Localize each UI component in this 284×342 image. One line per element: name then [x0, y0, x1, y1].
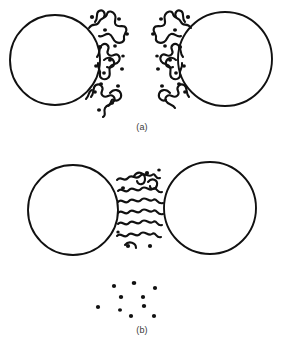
diagram-svg	[0, 0, 284, 342]
monomer-dot	[99, 82, 103, 86]
monomer-dot	[173, 28, 177, 32]
monomer-dot	[97, 108, 101, 112]
monomer-dot	[121, 186, 125, 190]
monomer-dot	[94, 64, 98, 67]
monomer-dot	[113, 44, 117, 47]
free-monomer-dot	[132, 281, 137, 285]
monomer-dot	[163, 44, 167, 47]
panel-a-label: (a)	[122, 122, 162, 132]
monomer-dot	[116, 84, 120, 88]
panel-a-left-particle	[10, 15, 100, 105]
free-monomer-dot	[129, 314, 133, 318]
free-monomer-dot	[152, 314, 156, 318]
monomer-dot	[120, 67, 124, 71]
monomer-dot	[183, 90, 187, 93]
monomer-dot	[177, 82, 181, 86]
free-monomer-dot	[112, 284, 116, 288]
monomer-dot	[157, 168, 161, 171]
monomer-dot	[148, 244, 152, 248]
monomer-dot	[102, 71, 106, 74]
monomer-dot	[108, 58, 112, 62]
panel-a-right-particle	[178, 12, 272, 106]
monomer-dot	[145, 171, 149, 175]
panel-b-left-particle	[28, 165, 118, 255]
monomer-dot	[159, 17, 163, 21]
monomer-dot	[182, 64, 186, 67]
monomer-dot	[117, 17, 121, 21]
monomer-dot	[126, 244, 130, 248]
free-monomer-dot	[141, 295, 145, 299]
free-monomer-dot	[142, 304, 146, 308]
monomer-dot	[90, 15, 94, 19]
monomer-dot	[121, 54, 125, 57]
monomer-dot	[186, 15, 190, 19]
monomer-dot	[151, 32, 155, 36]
monomer-dot	[174, 71, 178, 74]
monomer-dot	[160, 84, 164, 88]
monomer-dot	[168, 58, 172, 62]
monomer-dot	[98, 45, 102, 49]
monomer-dot	[110, 101, 114, 105]
panel-b-label: (b)	[122, 325, 162, 335]
monomer-dot	[156, 67, 160, 71]
monomer-dot	[125, 32, 129, 36]
figure-canvas: (a) (b)	[0, 0, 284, 342]
free-monomer-dot	[118, 308, 122, 312]
monomer-dot	[116, 230, 119, 233]
monomer-dot	[178, 45, 182, 49]
monomer-dot	[93, 90, 97, 93]
monomer-dot	[155, 54, 159, 57]
monomer-dot	[103, 28, 107, 32]
free-monomer-dot	[96, 305, 100, 309]
panel-b-right-particle	[164, 162, 256, 254]
free-monomer-dot	[119, 295, 123, 299]
free-monomer-dot	[153, 286, 157, 290]
